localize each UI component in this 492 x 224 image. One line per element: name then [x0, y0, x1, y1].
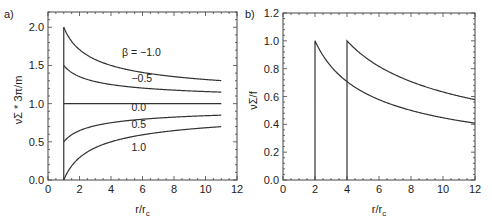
x-tick-label: 10	[199, 183, 211, 195]
y-tick-label: 1.5	[29, 59, 44, 71]
panel-label: b)	[245, 8, 255, 20]
series-label: 1.0	[131, 141, 146, 153]
panel-a-chart: a)0246810120.00.51.01.52.0r/rcνΣ * 3π/mβ…	[4, 8, 243, 218]
x-tick-label: 8	[408, 183, 414, 195]
x-tick-label: 12	[231, 183, 243, 195]
panel-label: a)	[4, 8, 14, 20]
x-tick-label: 6	[376, 183, 382, 195]
x-tick-label: 8	[171, 183, 177, 195]
y-tick-label: 1.2	[264, 7, 279, 19]
series-label: 0.5	[131, 118, 146, 130]
y-axis-label: νΣ/f	[247, 90, 259, 109]
plot-frame	[48, 12, 237, 180]
x-tick-label: 4	[108, 183, 114, 195]
x-tick-label: 4	[344, 183, 350, 195]
y-tick-label: 0.0	[264, 174, 279, 186]
y-tick-label: 0.4	[264, 118, 279, 130]
x-tick-label: 0	[45, 183, 51, 195]
y-tick-label: 0.2	[264, 146, 279, 158]
y-axis-label: νΣ * 3π/m	[12, 76, 24, 125]
figure: a)0246810120.00.51.01.52.0r/rcνΣ * 3π/mβ…	[0, 0, 492, 224]
series-label: −0.5	[131, 72, 152, 84]
series-line	[64, 127, 222, 180]
x-axis-label: r/rc	[372, 203, 386, 218]
y-tick-label: 1.0	[29, 98, 44, 110]
y-tick-label: 1.0	[264, 35, 279, 47]
y-tick-label: 2.0	[29, 21, 44, 33]
plot-frame	[283, 13, 475, 180]
y-tick-label: 0.8	[264, 63, 279, 75]
y-tick-label: 0.0	[29, 174, 44, 186]
x-tick-label: 2	[76, 183, 82, 195]
y-tick-label: 0.5	[29, 136, 44, 148]
x-tick-label: 2	[312, 183, 318, 195]
x-tick-label: 0	[280, 183, 286, 195]
series-line	[315, 41, 475, 180]
panel-b-chart: b)0246810120.00.20.40.60.81.01.2r/rcνΣ/f	[245, 7, 481, 218]
x-axis-label: r/rc	[135, 203, 149, 218]
x-tick-label: 6	[139, 183, 145, 195]
y-tick-label: 0.6	[264, 91, 279, 103]
series-label: β = −1.0	[122, 46, 161, 58]
series-label: 0.0	[131, 101, 146, 113]
x-tick-label: 12	[469, 183, 481, 195]
x-tick-label: 10	[437, 183, 449, 195]
